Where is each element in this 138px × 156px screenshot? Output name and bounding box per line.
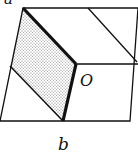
label-b: b (58, 134, 69, 154)
label-a: a (4, 0, 13, 8)
top-right-diagonal (88, 8, 137, 62)
label-o: O (80, 71, 93, 90)
figure: a O b (0, 0, 138, 156)
